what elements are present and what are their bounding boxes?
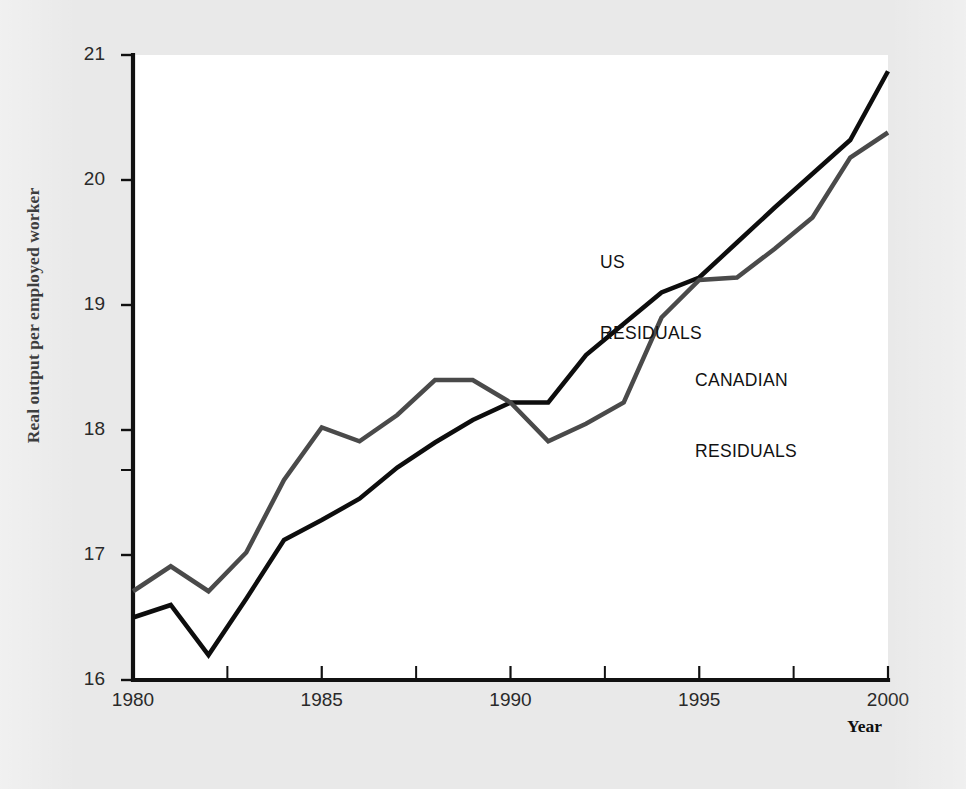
chart-svg [0, 0, 966, 789]
y-tick-label: 18 [65, 418, 105, 440]
figure-canvas: Real output per employed worker Year 161… [0, 0, 966, 789]
canadian-residuals-annotation-line2: RESIDUALS [695, 440, 797, 464]
y-tick-label: 17 [65, 543, 105, 565]
x-tick-label: 1990 [471, 689, 551, 711]
x-axis-title: Year [847, 716, 882, 737]
y-axis-title: Real output per employed worker [23, 106, 44, 526]
x-tick-label: 2000 [848, 689, 928, 711]
x-tick-label: 1980 [93, 689, 173, 711]
y-tick-label: 21 [65, 43, 105, 65]
x-tick-label: 1985 [282, 689, 362, 711]
x-tick-label: 1995 [659, 689, 739, 711]
us-residuals-annotation-line1: US [600, 251, 702, 275]
us-residuals-annotation: US RESIDUALS [600, 204, 702, 393]
canadian-residuals-annotation-line1: CANADIAN [695, 369, 797, 393]
y-tick-label: 19 [65, 293, 105, 315]
canadian-residuals-annotation: CANADIAN RESIDUALS [695, 322, 797, 511]
y-tick-label: 20 [65, 168, 105, 190]
us-residuals-annotation-line2: RESIDUALS [600, 322, 702, 346]
y-tick-label: 16 [65, 668, 105, 690]
